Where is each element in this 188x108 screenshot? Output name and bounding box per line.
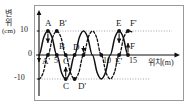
point-label-a-prime: A': [42, 56, 50, 66]
point-label-f-prime: F': [130, 18, 137, 28]
datapoint-b-prime: [55, 29, 59, 33]
y-tick-label-minus10: -10: [14, 73, 25, 82]
y-tick-label-0: 0: [28, 49, 32, 58]
point-label-c-prime: C': [63, 56, 71, 66]
y-axis-arrowhead: [37, 10, 42, 15]
y-tick-label-10: 10: [20, 25, 28, 34]
point-label-a: A: [45, 18, 52, 28]
point-label-f: F: [130, 41, 135, 51]
x-tick-label-10: 10: [103, 56, 111, 65]
x-axis-title: 위치(m): [148, 56, 174, 67]
point-label-e: E: [116, 18, 122, 28]
datapoint-a: [46, 29, 50, 33]
datapoint-mid-axis: [82, 53, 86, 57]
wave-displacement-figure: 변위 (cm): [0, 0, 188, 108]
x-tick-label-15: 15: [129, 56, 137, 65]
x-axis-arrowhead: [175, 53, 181, 58]
point-label-e-prime: E': [115, 56, 122, 66]
point-label-b: B: [59, 41, 65, 51]
datapoint-f-prime: [126, 29, 130, 33]
point-label-b-prime: B': [59, 18, 67, 28]
point-label-c: C: [63, 81, 69, 91]
point-label-d-prime: D': [78, 81, 86, 91]
datapoint-d: [73, 53, 77, 57]
point-label-d: D: [73, 42, 80, 52]
x-tick-label-5: 5: [54, 56, 58, 65]
datapoint-d-prime: [73, 77, 77, 81]
datapoint-e: [117, 29, 121, 33]
